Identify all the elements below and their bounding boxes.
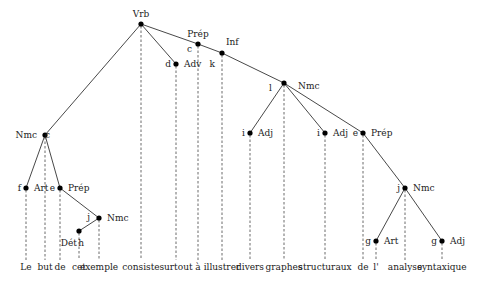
node-label: Nmc [16, 130, 37, 140]
node-label: Adj [257, 128, 273, 138]
sentence-words: Lebutdecetexempleconsistesurtoutàillustr… [20, 262, 466, 272]
node-label: Nmc [298, 81, 319, 91]
sentence-word: consiste [122, 262, 159, 272]
tree-node-nmc0: Nmcc [16, 130, 50, 140]
tree-edge [405, 188, 442, 241]
node-label: Inf [226, 37, 239, 47]
node-dot-icon [23, 185, 28, 190]
sentence-word: exemple [80, 262, 118, 272]
node-dot-icon [96, 215, 101, 220]
tree-node-art2: Artg [365, 236, 399, 246]
node-tag: f [18, 183, 22, 193]
node-label: Nmc [107, 213, 128, 223]
node-tag: e [50, 183, 55, 193]
tree-node-prep0: Prépe [50, 183, 90, 193]
node-tag: j [396, 183, 400, 193]
tree-node-adv: Advd [165, 59, 202, 69]
node-label: Art [33, 183, 49, 193]
sentence-word: graphes [266, 262, 303, 272]
node-dot-icon [247, 130, 252, 135]
sentence-word: divers [236, 262, 264, 272]
node-label: Vrb [132, 9, 150, 19]
node-tag: c [187, 44, 192, 54]
node-dot-icon [173, 61, 178, 66]
tree-node-vrb: Vrb [132, 9, 150, 27]
tree-node-det: Déth [61, 228, 84, 248]
node-tag: g [431, 236, 437, 246]
node-label: Dét [61, 238, 78, 248]
node-label: Nmc [413, 183, 434, 193]
sentence-word: de [357, 262, 368, 272]
node-label: Prép [68, 183, 90, 193]
node-dot-icon [402, 185, 407, 190]
tree-node-art1: Artf [18, 183, 49, 193]
node-tag: c [45, 130, 50, 140]
node-dot-icon [360, 130, 365, 135]
node-tag: j [86, 212, 90, 222]
node-label: Adj [332, 128, 348, 138]
node-tag: i [242, 128, 245, 138]
tree-edge [198, 44, 222, 53]
node-label: Adv [183, 59, 202, 69]
node-label: Adj [449, 236, 465, 246]
tree-edge [45, 135, 60, 188]
tree-node-inf: Infk [210, 37, 240, 69]
sentence-word: à [195, 262, 201, 272]
node-tag: k [210, 59, 216, 69]
node-label: Art [383, 236, 399, 246]
node-dot-icon [138, 21, 143, 26]
tree-edge [363, 133, 405, 188]
node-dot-icon [373, 238, 378, 243]
sentence-word: de [54, 262, 65, 272]
tree-node-adj3: Adjg [431, 236, 465, 246]
node-dot-icon [195, 41, 200, 46]
tree-edge [250, 83, 284, 133]
sentence-word: syntaxique [417, 262, 466, 272]
node-dot-icon [57, 185, 62, 190]
node-tag: g [365, 236, 371, 246]
tree-node-prep2: Prépe [353, 128, 393, 138]
node-dot-icon [439, 238, 444, 243]
node-dot-icon [219, 50, 224, 55]
tree-edge [284, 83, 363, 133]
tree-nodes: VrbAdvdPrépcInfkNmclAdjiAdjiPrépeNmcjArt… [16, 9, 466, 248]
sentence-word: l' [373, 262, 378, 272]
node-dot-icon [281, 80, 286, 85]
node-tag: l [269, 83, 272, 93]
tree-edge [376, 188, 405, 241]
sentence-word: surtout [159, 262, 193, 272]
sentence-word: but [37, 262, 53, 272]
node-tag: i [317, 128, 320, 138]
node-dot-icon [322, 130, 327, 135]
dependency-tree-diagram: VrbAdvdPrépcInfkNmclAdjiAdjiPrépeNmcjArt… [0, 0, 478, 290]
node-tag: e [353, 128, 358, 138]
tree-edge [45, 24, 141, 135]
tree-edge [222, 53, 284, 83]
tree-node-nmc1: Nmcl [269, 80, 319, 93]
node-label: Prép [371, 128, 393, 138]
tree-node-nmc3: Nmcj [86, 212, 128, 223]
node-tag: d [165, 59, 171, 69]
node-label: Prép [187, 29, 209, 39]
tree-edge [26, 135, 45, 188]
node-tag: h [78, 238, 84, 248]
sentence-word: Le [20, 262, 31, 272]
tree-node-adj1: Adji [242, 128, 273, 138]
node-dot-icon [76, 228, 81, 233]
sentence-word: structuraux [298, 262, 351, 272]
